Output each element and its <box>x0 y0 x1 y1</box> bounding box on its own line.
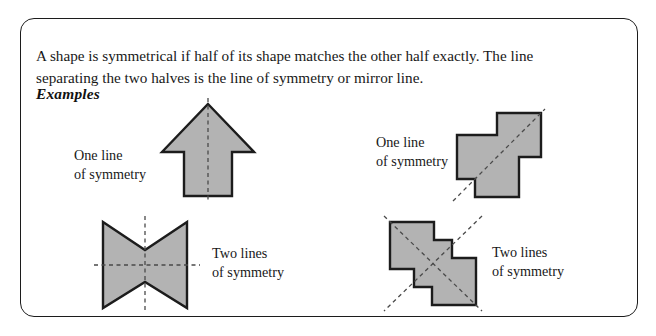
intro-paragraph: A shape is symmetrical if half of its sh… <box>36 45 596 89</box>
caption-arrow: One line of symmetry <box>74 146 146 183</box>
caption-bowtie: Two lines of symmetry <box>212 244 284 281</box>
examples-heading: Examples <box>36 85 100 103</box>
z-polyomino-shape <box>378 210 490 320</box>
up-arrow-shape <box>150 96 270 208</box>
caption-zshape: Two lines of symmetry <box>492 243 564 280</box>
bowtie-shape <box>92 212 202 316</box>
figure-zshape <box>378 210 490 320</box>
caption-cross: One line of symmetry <box>376 133 448 170</box>
figure-bowtie <box>92 212 202 316</box>
symmetry-worksheet-page: A shape is symmetrical if half of its sh… <box>0 0 656 336</box>
figure-arrow <box>150 96 270 208</box>
cross-polyomino-shape <box>444 100 556 210</box>
figure-cross <box>444 100 556 210</box>
